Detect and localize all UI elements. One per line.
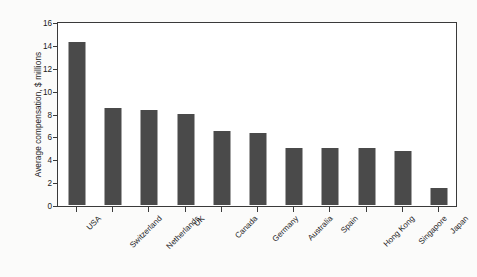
x-tick-label-spain: Spain (339, 214, 360, 235)
x-tick-mark (221, 207, 222, 212)
x-tick-mark (329, 207, 330, 212)
bar-australia (286, 148, 303, 205)
bar-slot (312, 24, 348, 205)
bar-slot (348, 24, 384, 205)
bar-slot (59, 24, 95, 205)
x-tick-label-canada: Canada (233, 214, 259, 240)
x-tick-label-australia: Australia (306, 214, 334, 242)
y-tick-label: 10 (12, 87, 52, 96)
bar-slot (131, 24, 167, 205)
y-tick-mark (53, 183, 57, 184)
x-tick-mark (257, 207, 258, 212)
bar-slot (204, 24, 240, 205)
bar-slot (385, 24, 421, 205)
x-tick-mark (438, 207, 439, 212)
bar-switzerland (105, 108, 122, 205)
y-tick-mark (53, 206, 57, 207)
y-tick-label: 4 (12, 156, 52, 165)
y-tick-mark (53, 69, 57, 70)
bar-netherlands (141, 110, 158, 205)
y-tick-label: 14 (12, 41, 52, 50)
bar-singapore (394, 151, 411, 205)
bar-slot (276, 24, 312, 205)
bars-layer (59, 24, 455, 205)
x-tick-label-japan: Japan (448, 214, 470, 236)
x-tick-mark (185, 207, 186, 212)
bar-chart-figure: Average compensation, $ millions 0246810… (0, 0, 477, 277)
x-tick-label-switzerland: Switzerland (128, 214, 164, 250)
y-tick-label: 6 (12, 133, 52, 142)
y-tick-mark (53, 137, 57, 138)
y-tick-mark (53, 92, 57, 93)
bar-canada (213, 131, 230, 205)
y-tick-label: 16 (12, 19, 52, 28)
x-tick-mark (76, 207, 77, 212)
bar-germany (249, 133, 266, 205)
y-tick-mark (53, 115, 57, 116)
y-tick-mark (53, 160, 57, 161)
x-tick-mark (402, 207, 403, 212)
bar-slot (95, 24, 131, 205)
bar-japan (430, 188, 447, 205)
y-tick-mark (53, 23, 57, 24)
bar-usa (69, 42, 86, 205)
bar-slot (168, 24, 204, 205)
y-tick-label: 0 (12, 202, 52, 211)
y-tick-mark (53, 46, 57, 47)
bar-hong-kong (358, 148, 375, 205)
x-tick-mark (148, 207, 149, 212)
x-tick-mark (293, 207, 294, 212)
plot-area (57, 22, 457, 207)
bar-slot (421, 24, 457, 205)
bar-uk (177, 114, 194, 206)
y-tick-label: 2 (12, 179, 52, 188)
bar-slot (240, 24, 276, 205)
x-tick-mark (112, 207, 113, 212)
y-tick-label: 12 (12, 64, 52, 73)
y-tick-label: 8 (12, 110, 52, 119)
x-tick-label-germany: Germany (271, 214, 301, 244)
x-tick-label-singapore: Singapore (416, 214, 448, 246)
x-tick-label-usa: USA (85, 214, 103, 232)
x-tick-mark (366, 207, 367, 212)
bar-spain (322, 148, 339, 205)
x-tick-label-hong-kong: Hong Kong (381, 214, 416, 249)
